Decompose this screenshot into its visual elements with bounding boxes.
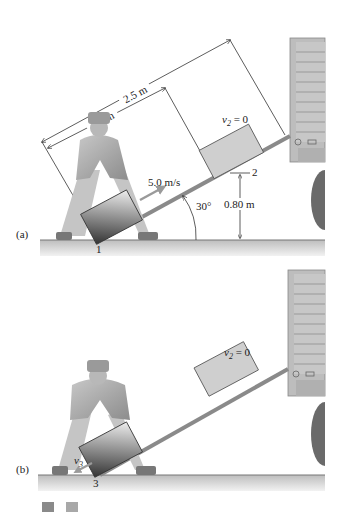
panel-b: v2 = 0 v3 (b) 3	[16, 270, 325, 491]
footer-square-1	[42, 502, 54, 512]
wheel-b	[311, 402, 325, 466]
panel-b-label: (b)	[16, 463, 29, 476]
wheel-a	[311, 170, 325, 230]
height-label: 0.80 m	[224, 198, 255, 210]
point-2-label: 2	[252, 166, 258, 178]
point-3-label: 3	[93, 477, 99, 489]
truck-b	[288, 270, 325, 466]
velocity-arrow-a	[140, 188, 162, 200]
angle-arc-a	[183, 196, 196, 240]
physics-diagram: 2.5 m 1.6 m v2 = 0 2 0.80 m 30°	[0, 0, 345, 512]
panel-a: 2.5 m 1.6 m v2 = 0 2 0.80 m 30°	[16, 38, 325, 256]
ground-a	[40, 240, 325, 256]
angle-label: 30°	[196, 200, 211, 212]
truck-a	[290, 38, 325, 230]
moving-box-b	[79, 422, 143, 477]
panel-a-label: (a)	[16, 228, 29, 241]
v2-label-a: v2 = 0	[222, 113, 249, 128]
footer-square-2	[66, 502, 78, 512]
speed-label: 5.0 m/s	[148, 176, 180, 188]
ground-b	[38, 475, 325, 491]
point-1-label: 1	[96, 243, 102, 255]
